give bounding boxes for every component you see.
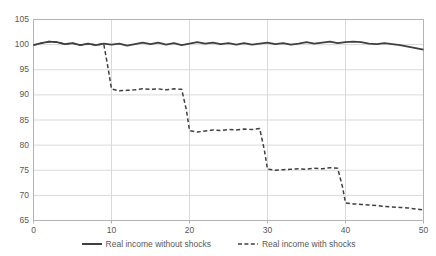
legend-label: Real income with shocks (262, 239, 356, 249)
x-axis-tick-label: 40 (334, 225, 358, 235)
y-axis-tick-label: 75 (4, 165, 29, 175)
y-axis-tick-label: 85 (4, 115, 29, 125)
x-axis-tick-label: 50 (412, 225, 436, 235)
y-axis-tick-label: 65 (4, 215, 29, 225)
solid-line-marker (81, 239, 103, 249)
x-axis-tick-label: 20 (178, 225, 202, 235)
grid-lines (34, 20, 424, 221)
x-axis-tick-label: 30 (256, 225, 280, 235)
y-axis-tick-label: 80 (4, 140, 29, 150)
x-axis-tick-label: 0 (22, 225, 46, 235)
plot-border (34, 20, 424, 224)
series-line-1 (34, 42, 424, 210)
x-axis-tick-label: 10 (100, 225, 124, 235)
legend-label: Real income without shocks (106, 239, 211, 249)
dashed-line-marker (237, 239, 259, 249)
y-axis-tick-label: 100 (4, 39, 29, 49)
line-chart: 10510095908580757065 01020304050 Real in… (0, 0, 436, 256)
y-axis-tick-label: 95 (4, 64, 29, 74)
series-line-0 (34, 42, 424, 50)
legend-entry: Real income without shocks (81, 239, 211, 249)
legend-entry: Real income with shocks (237, 239, 356, 249)
chart-canvas (0, 0, 436, 256)
y-axis-tick-label: 70 (4, 190, 29, 200)
y-axis-tick-label: 90 (4, 89, 29, 99)
series-paths (34, 42, 424, 210)
chart-legend: Real income without shocksReal income wi… (0, 236, 436, 252)
y-axis-tick-label: 105 (4, 14, 29, 24)
